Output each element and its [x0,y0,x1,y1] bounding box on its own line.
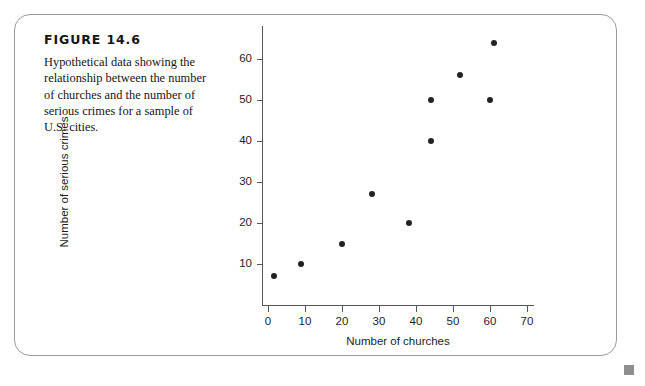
x-axis-tick-label: 10 [293,315,317,327]
data-point [406,220,412,226]
y-axis-tick-label: 10 [230,257,252,269]
data-point [457,72,463,78]
x-axis-tick [379,306,380,312]
x-axis-tick [305,306,306,312]
x-axis-tick-label: 50 [441,315,465,327]
x-axis-tick-label: 70 [515,315,539,327]
x-axis-tick [527,306,528,312]
x-axis-tick-label: 60 [478,315,502,327]
y-axis-tick [257,223,263,224]
x-axis-tick-label: 0 [256,315,280,327]
data-point [487,97,493,103]
x-axis-tick [453,306,454,312]
x-axis-tick-label: 30 [367,315,391,327]
y-axis-tick [257,141,263,142]
y-axis-tick-label: 30 [230,175,252,187]
data-point [491,40,497,46]
y-axis-tick [257,59,263,60]
x-axis-tick [268,306,269,312]
y-axis-tick-label: 60 [230,52,252,64]
y-axis-tick-label: 50 [230,93,252,105]
y-axis-tick-label: 40 [230,134,252,146]
y-axis-tick [257,182,263,183]
x-axis-tick [490,306,491,312]
x-axis-tick-label: 20 [330,315,354,327]
data-point [271,273,277,279]
scatter-plot: 102030405060010203040506070 Number of se… [0,0,645,386]
x-axis-tick-label: 40 [404,315,428,327]
y-axis-label: Number of serious crimes [58,82,70,282]
y-axis-tick-label: 20 [230,216,252,228]
y-axis-tick [257,100,263,101]
y-axis-tick [257,264,263,265]
data-point [298,261,304,267]
data-point [339,241,345,247]
page: FIGURE 14.6 Hypothetical data showing th… [0,0,645,386]
x-axis-tick [342,306,343,312]
data-point [428,138,434,144]
data-point [428,97,434,103]
x-axis-tick [416,306,417,312]
data-point [369,191,375,197]
x-axis-label: Number of churches [268,335,528,347]
x-axis-line [262,305,534,306]
